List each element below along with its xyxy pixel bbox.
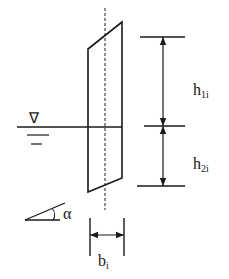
height-dimension <box>137 37 185 186</box>
water-surface <box>17 127 122 144</box>
h2-label: h2i <box>193 155 209 174</box>
inclined-plate <box>88 22 122 192</box>
water-level-symbol: ∇ <box>28 110 40 126</box>
width-dimension <box>90 218 124 256</box>
angle-icon <box>25 203 65 220</box>
b-label: bi <box>98 252 109 271</box>
h1-label: h1i <box>193 81 209 100</box>
diagram-canvas: ∇ h1i h2i α bi <box>0 0 229 279</box>
angle-label: α <box>63 205 72 222</box>
